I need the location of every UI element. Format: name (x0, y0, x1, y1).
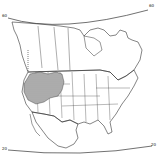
latitude-label-bottom-left: 20 (2, 147, 7, 151)
hudson-bay (84, 36, 102, 56)
distribution-range (24, 72, 64, 104)
latitude-label-top-left: 60 (2, 14, 7, 18)
latitude-line-bottom (8, 146, 152, 153)
mexico-outline (32, 112, 78, 148)
latitude-label-top-right: 60 (149, 4, 154, 8)
map-canvas (0, 0, 160, 159)
latitude-label-bottom-right: 20 (151, 143, 156, 147)
latitude-line-top (8, 10, 148, 24)
canada-outline (12, 22, 142, 80)
